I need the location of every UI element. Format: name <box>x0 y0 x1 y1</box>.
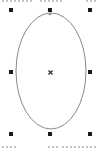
resize-handle-top-right[interactable] <box>88 8 92 12</box>
resize-handle-middle-right[interactable] <box>88 70 92 74</box>
path-node-marker[interactable] <box>49 13 52 16</box>
resize-handle-top-center[interactable] <box>48 8 52 12</box>
resize-handle-bottom-right[interactable] <box>88 132 92 136</box>
clipped-bottom-right-text-fragment <box>62 146 98 148</box>
clipped-top-text-fragment <box>86 0 98 2</box>
resize-handle-top-left[interactable] <box>9 8 13 12</box>
x-mark-icon[interactable] <box>48 70 53 75</box>
clipped-top-text-fragment <box>2 0 32 2</box>
resize-handle-bottom-left[interactable] <box>9 132 13 136</box>
resize-handle-middle-left[interactable] <box>9 70 13 74</box>
clipped-bottom-right-text-fragment <box>48 146 58 148</box>
drawing-canvas[interactable] <box>0 0 101 148</box>
clipped-bottom-left-text-fragment <box>2 146 16 148</box>
resize-handle-bottom-center[interactable] <box>48 132 52 136</box>
clipped-top-text-fragment <box>40 0 62 2</box>
